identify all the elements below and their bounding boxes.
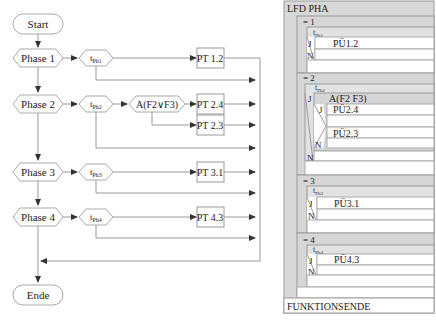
output-pt23: PT 2.3 [197, 115, 255, 135]
timer-ph3-node: tPh3 [63, 164, 255, 193]
svg-text:J: J [308, 94, 312, 104]
output-pt12: PT 1.2 [197, 48, 247, 68]
phase-3-node: Phase 3 [13, 163, 63, 181]
action-pu43: PÜ4.3 [334, 254, 359, 265]
case-1: = 1 tPh1 J N PÜ1.2 [297, 16, 434, 73]
start-label: Start [28, 18, 49, 30]
svg-text:J: J [319, 105, 323, 115]
svg-text:= 3: = 3 [303, 176, 315, 186]
timer-ph1-node: tPh1 [63, 50, 255, 80]
end-label: Ende [27, 289, 50, 301]
phase-2-node: Phase 2 [13, 95, 63, 113]
svg-text:= 4: = 4 [303, 235, 315, 245]
phase-4-node: Phase 4 [13, 208, 63, 226]
timer-ph4-node: tPh4 [63, 209, 255, 238]
flowchart: Start Phase 1 Phase 2 Phase 3 Phase 4 En… [13, 14, 260, 305]
svg-text:PT 1.2: PT 1.2 [197, 53, 224, 64]
phase-2-label: Phase 2 [21, 98, 55, 110]
svg-text:PT 3.1: PT 3.1 [197, 167, 224, 178]
svg-text:= 2: = 2 [303, 73, 315, 83]
svg-text:J: J [308, 39, 312, 49]
svg-text:N: N [315, 140, 322, 150]
svg-text:= 1: = 1 [303, 17, 315, 27]
phase-4-label: Phase 4 [21, 211, 55, 223]
case-2: = 2 tPh2 J A(F2 F3) J N PÜ2.4 PÜ2.3 N [297, 73, 434, 175]
action-pu31: PÜ3.1 [334, 198, 359, 209]
phase-3-label: Phase 3 [21, 166, 55, 178]
action-pu23: PÜ2.3 [333, 128, 358, 139]
structogram-title: LFD PHA [287, 3, 329, 14]
diagram-canvas: Start Phase 1 Phase 2 Phase 3 Phase 4 En… [0, 0, 436, 324]
structogram-footer: FUNKTIONSENDE [287, 301, 370, 312]
output-pt43: PT 4.3 [197, 207, 255, 227]
svg-text:J: J [309, 199, 313, 209]
action-pu24: PÜ2.4 [333, 104, 358, 115]
structogram: LFD PHA = 1 tPh1 J N PÜ1.2 = 2 tPh2 J [284, 1, 434, 313]
action-pu12: PÜ1.2 [333, 38, 358, 49]
case-3: = 3 tPh3 J N PÜ3.1 [297, 175, 434, 233]
svg-text:PT 4.3: PT 4.3 [197, 212, 224, 223]
output-pt31: PT 3.1 [197, 162, 255, 182]
svg-text:A(F2∨F3): A(F2∨F3) [136, 99, 178, 111]
case-4: = 4 tPh4 J N PÜ4.3 [297, 233, 434, 298]
condition-node: A(F2∨F3) [129, 96, 196, 125]
output-pt24: PT 2.4 [197, 94, 255, 114]
svg-text:J: J [309, 256, 313, 266]
svg-text:PT 2.4: PT 2.4 [197, 99, 224, 110]
phase-1-label: Phase 1 [21, 52, 55, 64]
phase-1-node: Phase 1 [13, 49, 63, 67]
svg-text:PT 2.3: PT 2.3 [197, 120, 224, 131]
